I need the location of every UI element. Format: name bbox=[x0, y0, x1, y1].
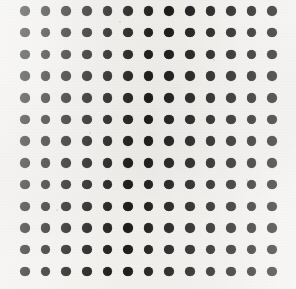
grid-dot bbox=[103, 202, 113, 212]
grid-dot bbox=[185, 93, 195, 103]
grid-dot bbox=[267, 71, 277, 81]
grid-dot bbox=[82, 50, 92, 60]
grid-dot bbox=[164, 6, 174, 16]
grid-dot bbox=[185, 71, 195, 81]
grid-dot bbox=[20, 6, 30, 16]
grid-dot bbox=[247, 180, 257, 190]
grid-dot bbox=[267, 6, 277, 16]
grid-dot bbox=[103, 245, 113, 255]
grid-dot bbox=[103, 71, 113, 81]
grid-dot bbox=[247, 6, 257, 16]
scan-speckle bbox=[167, 245, 169, 247]
grid-dot bbox=[123, 6, 133, 16]
grid-dot bbox=[247, 245, 257, 255]
grid-dot bbox=[185, 180, 195, 190]
grid-dot bbox=[247, 158, 257, 168]
grid-dot bbox=[164, 158, 174, 168]
grid-dot bbox=[226, 93, 236, 103]
grid-dot bbox=[164, 50, 174, 60]
grid-dot bbox=[123, 71, 133, 81]
grid-dot bbox=[103, 93, 113, 103]
grid-dot bbox=[247, 267, 257, 277]
grid-dot bbox=[206, 202, 216, 212]
grid-dot bbox=[185, 28, 195, 38]
grid-dot bbox=[226, 267, 236, 277]
grid-dot bbox=[41, 6, 51, 16]
grid-dot bbox=[164, 71, 174, 81]
grid-dot bbox=[206, 28, 216, 38]
grid-dot bbox=[267, 93, 277, 103]
grid-dot bbox=[61, 115, 71, 125]
grid-dot bbox=[82, 71, 92, 81]
grid-dot bbox=[267, 28, 277, 38]
grid-dot bbox=[226, 136, 236, 146]
grid-dot bbox=[82, 158, 92, 168]
grid-dot bbox=[164, 180, 174, 190]
grid-dot bbox=[185, 267, 195, 277]
grid-dot bbox=[185, 136, 195, 146]
grid-dot bbox=[123, 50, 133, 60]
grid-dot bbox=[61, 202, 71, 212]
grid-dot bbox=[123, 136, 133, 146]
grid-dot bbox=[61, 136, 71, 146]
grid-dot bbox=[226, 50, 236, 60]
grid-dot bbox=[20, 245, 30, 255]
grid-dot bbox=[41, 50, 51, 60]
grid-dot bbox=[267, 180, 277, 190]
scan-speckle bbox=[213, 59, 215, 61]
grid-dot bbox=[123, 223, 133, 233]
grid-dot bbox=[185, 223, 195, 233]
grid-dot bbox=[41, 180, 51, 190]
grid-dot bbox=[247, 223, 257, 233]
grid-dot bbox=[103, 28, 113, 38]
grid-dot bbox=[144, 50, 154, 60]
grid-dot bbox=[103, 6, 113, 16]
grid-dot bbox=[61, 223, 71, 233]
grid-dot bbox=[61, 180, 71, 190]
grid-dot bbox=[164, 223, 174, 233]
grid-dot bbox=[20, 158, 30, 168]
grid-dot bbox=[82, 202, 92, 212]
grid-dot bbox=[20, 115, 30, 125]
grid-dot bbox=[144, 115, 154, 125]
grid-dot bbox=[185, 158, 195, 168]
scan-speckle bbox=[89, 132, 92, 135]
grid-dot bbox=[185, 50, 195, 60]
grid-dot bbox=[41, 158, 51, 168]
grid-dot bbox=[267, 136, 277, 146]
grid-dot bbox=[144, 6, 154, 16]
grid-dot bbox=[226, 71, 236, 81]
grid-dot bbox=[61, 50, 71, 60]
grid-dot bbox=[206, 223, 216, 233]
grid-dot bbox=[185, 202, 195, 212]
grid-dot bbox=[247, 115, 257, 125]
grid-dot bbox=[144, 223, 154, 233]
grid-dot bbox=[144, 158, 154, 168]
grid-dot bbox=[41, 28, 51, 38]
grid-dot bbox=[82, 28, 92, 38]
grid-dot bbox=[206, 158, 216, 168]
grid-dot bbox=[41, 71, 51, 81]
grid-dot bbox=[82, 115, 92, 125]
grid-dot bbox=[82, 245, 92, 255]
grid-dot bbox=[20, 136, 30, 146]
grid-dot bbox=[206, 245, 216, 255]
grid-dot bbox=[226, 158, 236, 168]
grid-dot bbox=[123, 28, 133, 38]
grid-dot bbox=[267, 223, 277, 233]
grid-dot bbox=[123, 158, 133, 168]
grid-dot bbox=[61, 245, 71, 255]
grid-dot bbox=[164, 115, 174, 125]
grid-dot bbox=[61, 28, 71, 38]
grid-dot bbox=[144, 71, 154, 81]
grid-dot bbox=[164, 136, 174, 146]
grid-dot bbox=[185, 6, 195, 16]
grid-dot bbox=[226, 6, 236, 16]
grid-dot bbox=[20, 50, 30, 60]
grid-dot bbox=[206, 267, 216, 277]
grid-dot bbox=[20, 202, 30, 212]
grid-dot bbox=[103, 158, 113, 168]
grid-dot bbox=[20, 223, 30, 233]
grid-dot bbox=[206, 115, 216, 125]
grid-dot bbox=[226, 223, 236, 233]
